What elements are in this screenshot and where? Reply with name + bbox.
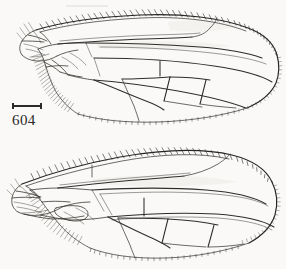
figure-604: 604 [0, 0, 286, 136]
scan-artifact [66, 5, 108, 7]
posterior-fringe-604 [78, 111, 234, 125]
wing-drawing-605 [0, 134, 286, 269]
scalebar-604 [12, 105, 42, 111]
basal-setae-604 [17, 22, 34, 40]
alula-fringe-604 [32, 54, 73, 112]
wing-base-sclerites-604 [20, 30, 94, 80]
figure-plate: 604 [0, 0, 286, 269]
figure-number-604: 604 [12, 113, 36, 128]
wing-drawing-604 [0, 0, 286, 136]
figure-605: 605 [0, 134, 286, 269]
alula-fringe-605 [27, 192, 82, 245]
